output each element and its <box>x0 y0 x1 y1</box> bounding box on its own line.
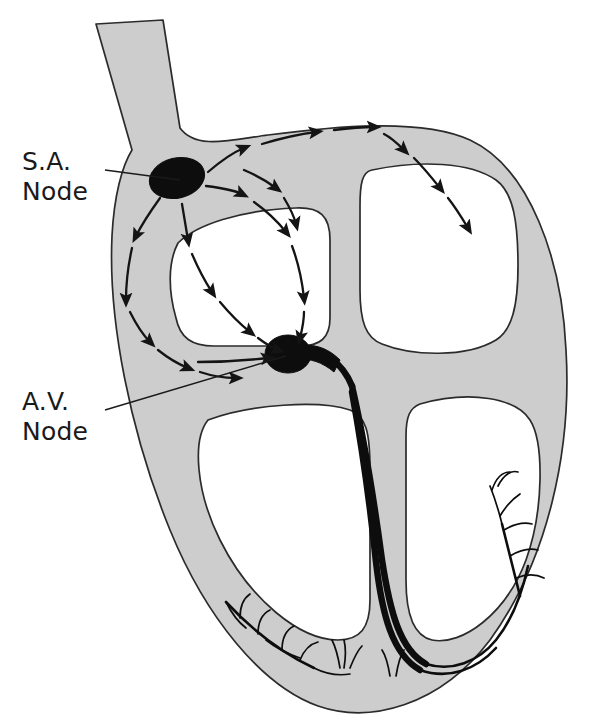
arrow-anterior-2 <box>192 254 212 292</box>
purkinje-right-branch-2 <box>500 494 520 516</box>
sa-node-label-line1: S.A. <box>22 147 71 176</box>
heart-conduction-diagram: S.A. Node A.V. Node <box>0 0 607 722</box>
purkinje-right-hook-2 <box>498 472 518 486</box>
sa-node-label-line2: Node <box>22 177 88 206</box>
heart-diagram-svg: S.A. Node A.V. Node <box>0 0 607 722</box>
purkinje-right-branch-3 <box>504 523 532 530</box>
av-node-label: A.V. Node <box>22 387 88 446</box>
purkinje-right-branch-1 <box>490 486 502 524</box>
purkinje-right-trunk <box>502 524 520 596</box>
sa-node-label: S.A. Node <box>22 147 88 206</box>
arrow-anterior-3 <box>220 302 250 332</box>
av-node-label-line2: Node <box>22 417 88 446</box>
av-node-label-line1: A.V. <box>22 387 69 416</box>
arrow-central-3 <box>292 246 304 298</box>
arrow-la-3 <box>448 198 468 228</box>
arrow-central-4 <box>300 312 304 338</box>
